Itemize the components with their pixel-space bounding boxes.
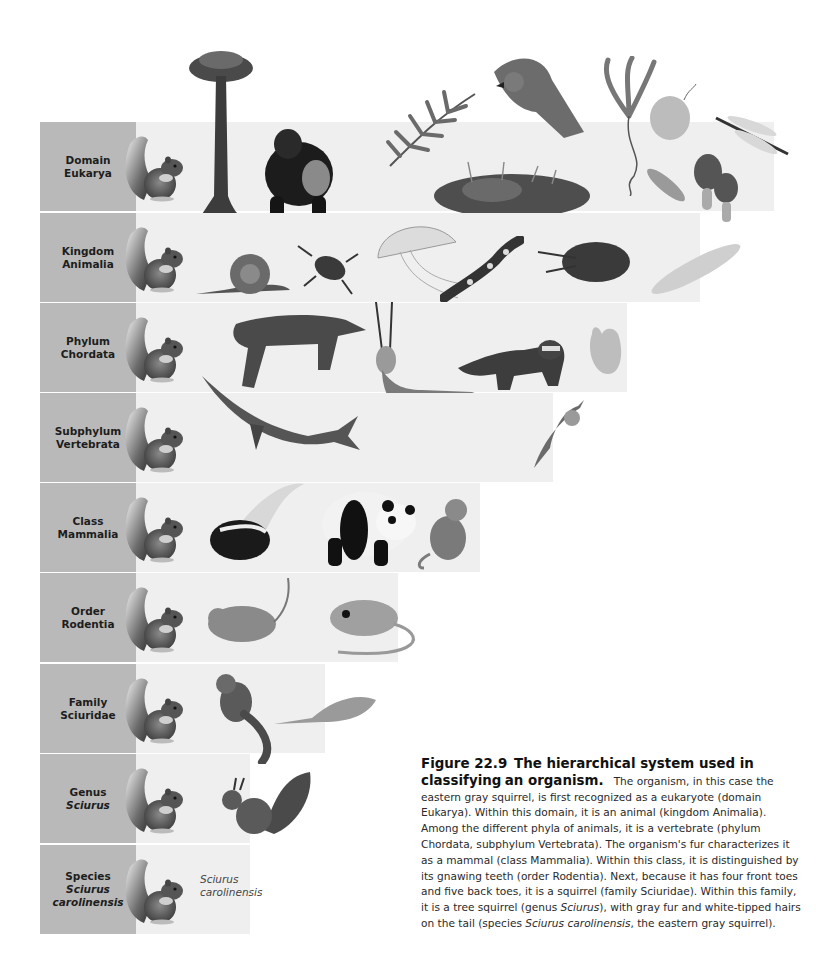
flatworm-icon [646, 236, 746, 302]
figure-number: Figure 22.9 [421, 756, 507, 771]
crayfish-icon [536, 232, 642, 292]
taxon-name: Vertebrata [56, 438, 120, 451]
snail-icon [194, 250, 298, 300]
hawk-icon [484, 52, 588, 142]
taxon-name: Chordata [61, 348, 115, 361]
morel-mushroom-icon [692, 150, 740, 222]
taxon-name: Sciurus [66, 799, 110, 812]
taxon-name: Rodentia [61, 618, 114, 631]
rank-text: Genus [70, 786, 107, 799]
paramecium-icon [640, 160, 692, 210]
figure-title-cont: an organism. [505, 773, 604, 788]
taxon-name: Mammalia [58, 528, 119, 541]
species-epithet: carolinensis [200, 886, 262, 899]
gray-squirrel-icon [122, 766, 186, 836]
figure-caption: Figure 22.9 The hierarchical system used… [421, 756, 801, 932]
species-genus: Sciurus [200, 873, 262, 886]
gray-squirrel-icon [122, 134, 186, 204]
taxon-name-epithet: carolinensis [52, 896, 123, 909]
raccoon-icon [454, 316, 568, 392]
gray-squirrel-icon [122, 315, 186, 385]
rank-text: Order [71, 605, 105, 618]
mouse-icon [200, 578, 296, 648]
whale-icon [198, 370, 362, 452]
caption-species: Sciurus carolinensis [525, 917, 630, 929]
rank-text: Domain [65, 154, 110, 167]
taxon-name: Sciurus [66, 883, 110, 896]
taxon-name: Sciuridae [60, 709, 115, 722]
salamander-icon [440, 236, 524, 302]
monkey-icon [414, 494, 476, 570]
skunk-icon [206, 480, 306, 568]
caption-genus: Sciurus [561, 901, 600, 913]
caption-text: The organism, in this case the eastern g… [421, 775, 799, 913]
warbler-icon [494, 398, 588, 500]
gray-squirrel-icon [122, 857, 186, 927]
rank-text: Species [65, 870, 110, 883]
protist-cell-icon [648, 84, 698, 144]
gray-squirrel-icon [122, 585, 186, 655]
rank-text: Kingdom [62, 245, 114, 258]
gray-squirrel-icon [122, 405, 186, 475]
panda-icon [314, 476, 424, 568]
chipmunk-icon [204, 672, 274, 764]
beetle-icon [296, 236, 362, 298]
rank-text: Class [73, 515, 104, 528]
gray-squirrel-icon [122, 676, 186, 746]
rank-text: Subphylum [55, 425, 121, 438]
tree-icon [186, 46, 256, 221]
gray-squirrel-icon [122, 495, 186, 565]
rank-text: Family [69, 696, 108, 709]
gray-squirrel-icon [122, 225, 186, 295]
red-squirrel-icon [214, 770, 314, 840]
caption-text-3: , the eastern gray squirrel). [630, 917, 775, 929]
taxon-name: Eukarya [64, 167, 112, 180]
row-species: Species Sciurus carolinensis Sciurus car… [40, 845, 250, 934]
kangaroo-rat-icon [318, 594, 430, 666]
species-name-label: Sciurus carolinensis [200, 873, 262, 899]
taxon-name: Animalia [62, 258, 114, 271]
flying-squirrel-icon [272, 686, 384, 732]
sea-squirt-icon [584, 320, 626, 376]
rank-text: Phylum [66, 335, 110, 348]
